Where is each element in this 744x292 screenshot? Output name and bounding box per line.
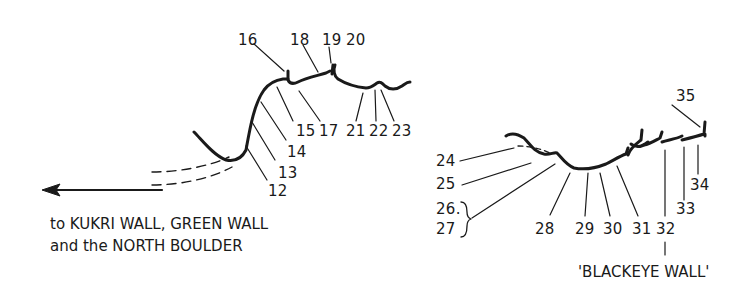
route-34: 34 <box>690 178 710 193</box>
left-arrow-icon <box>42 184 162 196</box>
approach-path-dashes <box>152 157 232 185</box>
route-13: 13 <box>278 166 298 181</box>
caption-line-2: and the NORTH BOULDER <box>50 236 268 258</box>
route-26: 26. <box>436 202 461 217</box>
left-leader-lines <box>246 44 394 180</box>
route-29: 29 <box>575 222 595 237</box>
route-23: 23 <box>392 124 412 139</box>
route-16: 16 <box>238 33 258 48</box>
route-21: 21 <box>346 124 366 139</box>
route-15: 15 <box>296 124 316 139</box>
wall-name-blackeye: 'BLACKEYE WALL' <box>578 262 709 284</box>
route-14: 14 <box>287 145 307 160</box>
route-22: 22 <box>369 124 389 139</box>
route-35: 35 <box>676 89 696 104</box>
right-crag-outline <box>506 122 705 169</box>
route-12: 12 <box>268 184 288 199</box>
route-20: 20 <box>346 33 366 48</box>
route-17: 17 <box>319 124 339 139</box>
brace-26-27 <box>461 202 471 237</box>
route-33: 33 <box>676 202 696 217</box>
route-28: 28 <box>535 222 555 237</box>
caption-line-1: to KUKRI WALL, GREEN WALL <box>50 214 268 236</box>
route-18: 18 <box>290 33 310 48</box>
route-31: 31 <box>632 222 652 237</box>
route-25: 25 <box>436 177 456 192</box>
route-27: 27 <box>436 222 456 237</box>
route-19: 19 <box>322 33 342 48</box>
direction-caption: to KUKRI WALL, GREEN WALL and the NORTH … <box>50 214 268 258</box>
route-24: 24 <box>436 154 456 169</box>
route-30: 30 <box>603 222 623 237</box>
route-32: 32 <box>656 222 676 237</box>
